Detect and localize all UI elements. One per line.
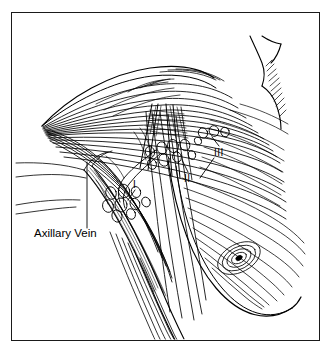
neck-shoulder-contour	[250, 36, 281, 129]
level-ii-label: II	[184, 173, 191, 184]
level-iii-label: III	[214, 147, 224, 158]
descending-nerve-strands	[110, 232, 186, 353]
pectoralis-major-surface-detail	[96, 79, 180, 116]
figure-root: Axillary Vein I II III	[0, 0, 332, 355]
axillary-anatomy-illustration: Axillary Vein I II III	[0, 0, 332, 355]
axillary-vein	[84, 166, 184, 342]
chest-wall-lines	[16, 163, 86, 214]
arm-hatching	[266, 60, 286, 116]
level-i-label: I	[133, 179, 136, 190]
breast-inferior-curve	[176, 166, 292, 315]
axillary-vein-label: Axillary Vein	[34, 227, 97, 239]
breast-surface-lines	[182, 178, 305, 309]
